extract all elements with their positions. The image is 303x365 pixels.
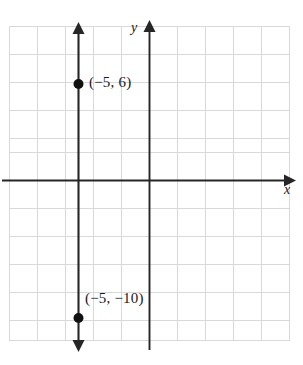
data-point-marker [74, 79, 84, 89]
y-axis-label: y [131, 20, 137, 36]
graphed-line-series [73, 22, 85, 352]
coordinate-plane-canvas [0, 0, 303, 365]
point-label-upper: (−5, 6) [89, 74, 131, 91]
x-axis-label: x [284, 182, 290, 198]
graph-figure: (−5, 6) (−5, −10) y x [0, 0, 303, 365]
axes-group [2, 20, 296, 350]
data-point-marker [74, 313, 84, 323]
line-arrow-up-icon [73, 22, 85, 34]
line-arrow-down-icon [73, 340, 85, 352]
point-label-lower: (−5, −10) [85, 290, 144, 307]
